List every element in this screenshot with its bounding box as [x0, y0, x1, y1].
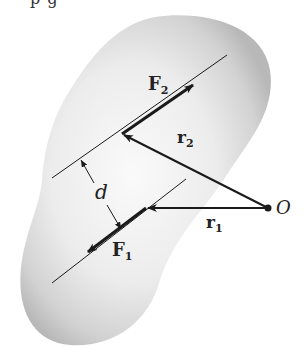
label-d: d	[95, 180, 108, 204]
label-o: O	[276, 197, 291, 218]
rigid-body-shape	[20, 15, 271, 345]
couple-moment-diagram: F2 r2 d O r1 F1	[0, 0, 308, 347]
origin-point	[265, 205, 272, 212]
label-r1: r1	[206, 212, 223, 235]
